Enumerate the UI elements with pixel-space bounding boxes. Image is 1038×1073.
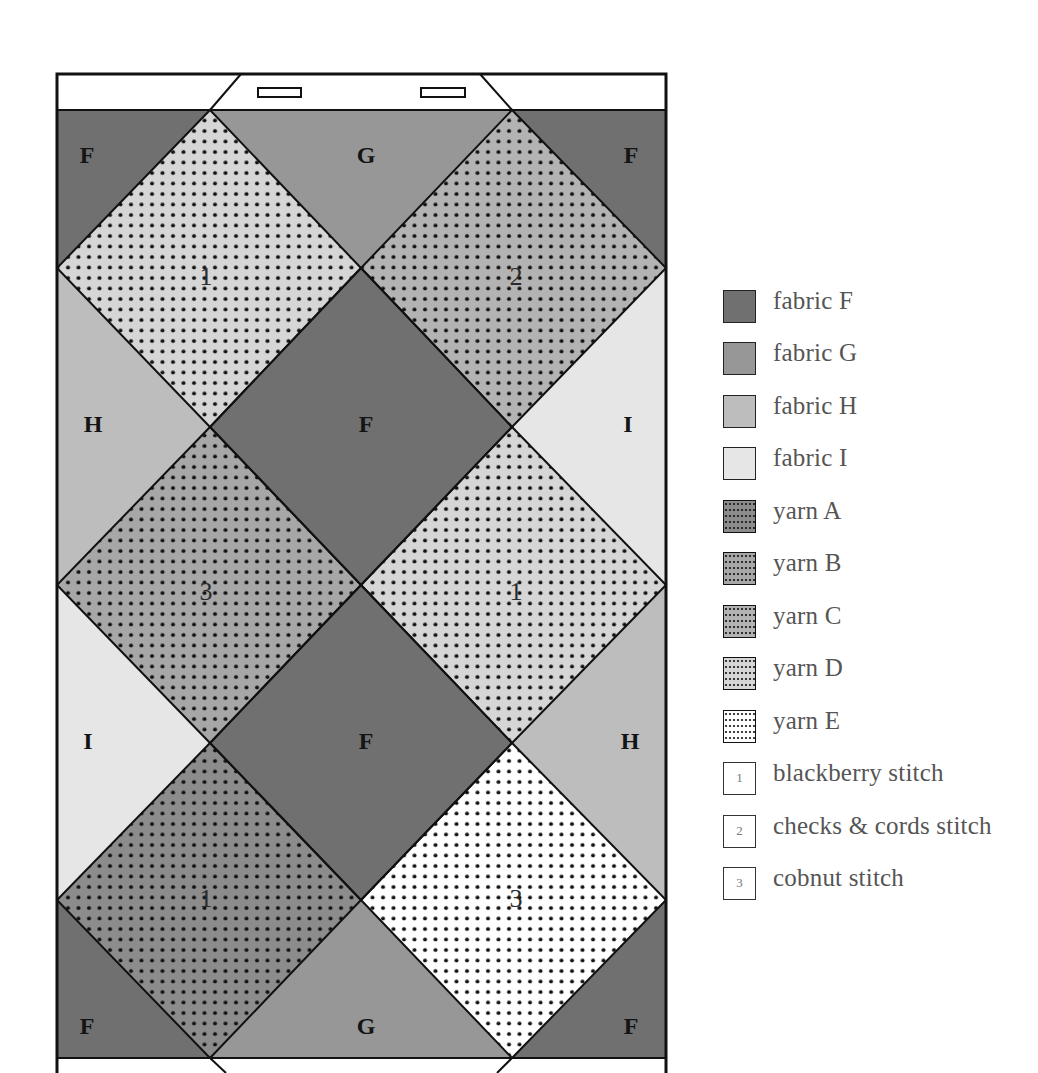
legend-label: checks & cords stitch: [773, 812, 992, 840]
legend-item-fabric-h: fabric H: [723, 395, 1038, 431]
label-mid-upper-center: F: [359, 411, 374, 437]
legend-item-stitch-2: 2 checks & cords stitch: [723, 815, 1038, 851]
legend-item-yarn-c: yarn C: [723, 605, 1038, 641]
swatch-yarn-c-icon: [723, 605, 756, 638]
label-mid-upper-left: H: [84, 411, 103, 437]
legend-item-yarn-a: yarn A: [723, 500, 1038, 536]
swatch-fabric-h-icon: [723, 395, 756, 428]
label-mid-lower-left: I: [83, 728, 92, 754]
stitch-2-box-icon: 2: [723, 815, 756, 848]
stitch-middle-left: 3: [200, 577, 213, 606]
swatch-yarn-b-icon: [723, 552, 756, 585]
legend-item-yarn-e: yarn E: [723, 710, 1038, 746]
quilt-diagram: F G F H F I I F H F G F 1 2 3 1 1 3: [0, 0, 700, 1073]
label-top-left: F: [80, 142, 95, 168]
stitch-top-left: 1: [200, 262, 213, 291]
stitch-bottom-left: 1: [200, 884, 213, 913]
legend-label: blackberry stitch: [773, 759, 944, 787]
hanging-tab-right: [421, 88, 465, 97]
swatch-yarn-e-icon: [723, 710, 756, 743]
legend-item-fabric-i: fabric I: [723, 447, 1038, 483]
swatch-fabric-i-icon: [723, 447, 756, 480]
legend-item-fabric-g: fabric G: [723, 342, 1038, 378]
legend-item-yarn-b: yarn B: [723, 552, 1038, 588]
legend-label: yarn E: [773, 707, 840, 735]
legend-label: yarn B: [773, 549, 842, 577]
label-mid-lower-right: H: [621, 728, 640, 754]
swatch-fabric-f-icon: [723, 290, 756, 323]
stitch-3-box-icon: 3: [723, 867, 756, 900]
stitch-middle-right: 1: [510, 577, 523, 606]
label-top-right: F: [624, 142, 639, 168]
hanging-tab-left: [258, 88, 301, 97]
legend-label: fabric I: [773, 444, 847, 472]
label-top-center: G: [357, 142, 376, 168]
swatch-yarn-d-icon: [723, 657, 756, 690]
stitch-bottom-right: 3: [510, 884, 523, 913]
legend-item-yarn-d: yarn D: [723, 657, 1038, 693]
label-bottom-center: G: [357, 1013, 376, 1039]
legend-label: fabric G: [773, 339, 857, 367]
label-bottom-left: F: [80, 1013, 95, 1039]
legend-label: fabric H: [773, 392, 857, 420]
legend-item-stitch-1: 1 blackberry stitch: [723, 762, 1038, 798]
label-bottom-right: F: [624, 1013, 639, 1039]
legend-label: yarn A: [773, 497, 842, 525]
stitch-top-right: 2: [510, 262, 523, 291]
swatch-fabric-g-icon: [723, 342, 756, 375]
legend-label: yarn D: [773, 654, 843, 682]
legend-item-stitch-3: 3 cobnut stitch: [723, 867, 1038, 903]
legend-label: cobnut stitch: [773, 864, 904, 892]
legend-item-fabric-f: fabric F: [723, 290, 1038, 326]
swatch-yarn-a-icon: [723, 500, 756, 533]
label-mid-lower-center: F: [359, 728, 374, 754]
label-mid-upper-right: I: [623, 411, 632, 437]
legend-label: fabric F: [773, 287, 853, 315]
legend-label: yarn C: [773, 602, 842, 630]
top-band: [57, 74, 666, 110]
stitch-1-box-icon: 1: [723, 762, 756, 795]
